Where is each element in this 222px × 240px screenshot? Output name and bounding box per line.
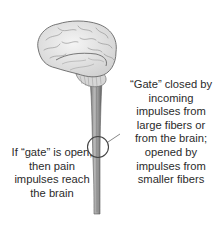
label-line: the brain — [0, 187, 104, 201]
leader-line — [108, 134, 120, 142]
label-line: large fibers or — [120, 119, 222, 133]
gate-closed-label: “Gate” closed by incoming impulses from … — [120, 78, 222, 187]
gate-open-label: If “gate” is open, then pain impulses re… — [0, 146, 104, 200]
label-line: impulses reach — [0, 173, 104, 187]
label-line: then pain — [0, 160, 104, 174]
label-line: “Gate” closed by — [120, 78, 222, 92]
label-line: If “gate” is open, — [0, 146, 104, 160]
label-line: from the brain; — [120, 132, 222, 146]
label-line: impulses from — [120, 160, 222, 174]
label-line: smaller fibers — [120, 173, 222, 187]
brain — [38, 21, 117, 77]
label-line: impulses from — [120, 105, 222, 119]
label-line: incoming — [120, 92, 222, 106]
label-line: opened by — [120, 146, 222, 160]
